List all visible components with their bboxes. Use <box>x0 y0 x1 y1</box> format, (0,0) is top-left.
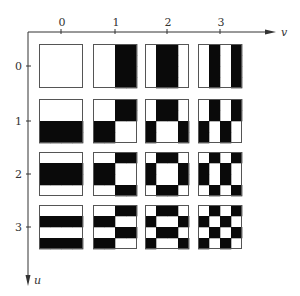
basis-cell-u3-v1 <box>93 205 137 249</box>
basis-cell-u2-v0 <box>39 152 83 196</box>
v-axis-label: v <box>281 26 288 39</box>
u-tick-label: 0 <box>15 60 22 73</box>
basis-cell-u1-v2 <box>145 99 189 143</box>
basis-cell-u0-v1 <box>93 44 137 88</box>
v-tick-label: 2 <box>165 16 172 29</box>
basis-cell-u3-v2 <box>145 205 189 249</box>
u-axis-arrow-icon <box>26 275 31 286</box>
u-tick-label: 2 <box>15 168 22 181</box>
v-tick-label: 3 <box>218 16 225 29</box>
v-tick-label: 1 <box>113 16 120 29</box>
basis-cell-u2-v2 <box>145 152 189 196</box>
basis-cell-u1-v3 <box>198 99 242 143</box>
basis-function-diagram: vu01230123 <box>0 0 300 296</box>
basis-cell-u0-v0 <box>39 44 83 88</box>
u-axis-label: u <box>34 274 41 287</box>
v-tick-label: 0 <box>59 16 66 29</box>
u-tick-label: 1 <box>15 115 22 128</box>
u-tick-label: 3 <box>15 221 22 234</box>
basis-cell-u2-v3 <box>198 152 242 196</box>
basis-cell-u3-v3 <box>198 205 242 249</box>
v-axis-arrow-icon <box>265 30 276 35</box>
basis-cell-u1-v1 <box>93 99 137 143</box>
basis-cell-u2-v1 <box>93 152 137 196</box>
basis-cell-u0-v3 <box>198 44 242 88</box>
basis-grid <box>39 44 242 249</box>
basis-cell-u0-v2 <box>145 44 189 88</box>
basis-cell-u3-v0 <box>39 205 83 249</box>
basis-cell-u1-v0 <box>39 99 83 143</box>
